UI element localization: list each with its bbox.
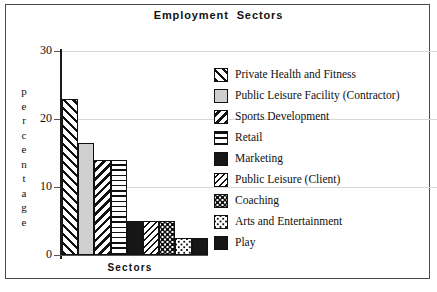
y-axis-title-letter: g	[18, 200, 30, 215]
y-axis-title-letter: p	[18, 84, 30, 99]
x-axis-title: Sectors	[40, 262, 220, 273]
bar	[62, 99, 78, 255]
legend-item: Arts and Entertainment	[214, 211, 429, 232]
bar	[94, 160, 110, 255]
bar	[175, 238, 191, 255]
bar	[192, 238, 208, 255]
legend-swatch-icon	[214, 68, 228, 82]
bar-series	[62, 51, 210, 255]
bar	[78, 143, 94, 255]
legend-swatch-icon	[214, 89, 228, 103]
legend-item: Retail	[214, 127, 429, 148]
legend-label: Sports Development	[235, 111, 329, 123]
y-tick-label: 0	[26, 248, 52, 260]
legend-label: Coaching	[235, 195, 279, 207]
legend-swatch-icon	[214, 131, 228, 145]
chart-figure: Employment Sectors 0102030 percentage Se…	[0, 0, 437, 292]
chart-title: Employment Sectors	[0, 9, 437, 21]
y-axis-title-letter: e	[18, 99, 30, 114]
legend-swatch-icon	[214, 173, 228, 187]
y-axis-title-letter: t	[18, 171, 30, 186]
y-axis-title-letter: e	[18, 215, 30, 230]
legend-label: Public Leisure Facility (Contractor)	[235, 90, 399, 102]
bar	[127, 221, 143, 255]
bar	[143, 221, 159, 255]
x-axis-baseline	[58, 255, 208, 256]
legend-swatch-icon	[214, 152, 228, 166]
legend-item: Sports Development	[214, 106, 429, 127]
legend-swatch-icon	[214, 110, 228, 124]
legend-label: Public Leisure (Client)	[235, 174, 340, 186]
legend-item: Public Leisure (Client)	[214, 169, 429, 190]
legend-label: Private Health and Fitness	[235, 69, 356, 81]
y-axis-title-letter: n	[18, 157, 30, 172]
bar	[111, 160, 127, 255]
y-axis-title: percentage	[18, 84, 30, 229]
y-axis-title-letter: e	[18, 142, 30, 157]
y-tick-label: 30	[26, 44, 52, 56]
legend-item: Private Health and Fitness	[214, 64, 429, 85]
legend-item: Marketing	[214, 148, 429, 169]
legend-label: Arts and Entertainment	[235, 216, 342, 228]
y-axis-title-letter: r	[18, 113, 30, 128]
legend-label: Marketing	[235, 153, 283, 165]
bar	[159, 221, 175, 255]
legend-item: Public Leisure Facility (Contractor)	[214, 85, 429, 106]
legend-item: Play	[214, 232, 429, 253]
legend-swatch-icon	[214, 236, 228, 250]
legend-label: Retail	[235, 132, 262, 144]
chart-legend: Private Health and FitnessPublic Leisure…	[214, 64, 429, 253]
legend-swatch-icon	[214, 215, 228, 229]
legend-label: Play	[235, 237, 255, 249]
legend-item: Coaching	[214, 190, 429, 211]
y-axis-title-letter: a	[18, 186, 30, 201]
y-axis-title-letter: c	[18, 128, 30, 143]
legend-swatch-icon	[214, 194, 228, 208]
